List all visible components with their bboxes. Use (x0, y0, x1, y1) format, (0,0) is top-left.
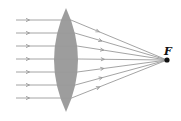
refracted-ray (72, 60, 167, 98)
refracted-ray (71, 20, 167, 60)
light-rays (16, 18, 167, 99)
focal-point-dot (164, 57, 169, 62)
refracted-ray (75, 60, 167, 85)
refracted-ray (78, 59, 167, 60)
lens-diagram: F (0, 0, 181, 121)
refracted-ray (75, 33, 167, 60)
refracted-ray (77, 46, 167, 60)
focal-point-label: F (163, 45, 173, 58)
refracted-ray (77, 60, 167, 72)
